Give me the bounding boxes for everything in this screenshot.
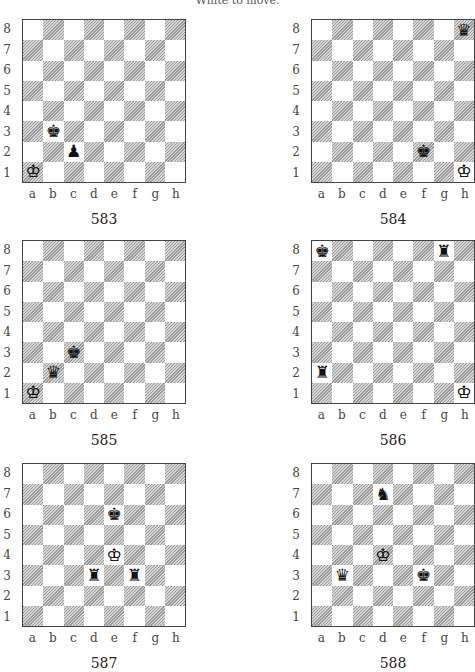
square-f4 <box>124 545 144 565</box>
square-c5 <box>64 81 84 101</box>
square-a7 <box>312 40 332 60</box>
chess-diagram-585: 87654321♚♛♔abcdefgh585 <box>0 240 200 460</box>
square-e5 <box>393 81 413 101</box>
rank-label: 3 <box>289 566 303 587</box>
square-f6 <box>124 505 144 525</box>
square-h3 <box>454 342 474 362</box>
square-g1 <box>434 606 454 626</box>
square-f4 <box>413 101 433 121</box>
square-h3 <box>454 121 474 141</box>
rank-label: 4 <box>289 322 303 343</box>
square-a3 <box>312 121 332 141</box>
square-g5 <box>145 302 165 322</box>
square-b2 <box>43 142 63 162</box>
square-b4 <box>43 322 63 342</box>
white-king-icon: ♔ <box>107 547 122 564</box>
rank-label: 2 <box>0 586 14 607</box>
square-d3 <box>373 565 393 585</box>
square-f5 <box>124 302 144 322</box>
square-c4 <box>353 101 373 121</box>
rank-label: 1 <box>0 607 14 628</box>
square-g4 <box>434 322 454 342</box>
rank-label: 2 <box>0 363 14 384</box>
square-a1 <box>23 606 43 626</box>
file-label: g <box>434 408 455 422</box>
square-e4 <box>104 322 124 342</box>
rank-label: 3 <box>0 566 14 587</box>
square-c1 <box>353 162 373 182</box>
rank-label: 7 <box>0 40 14 61</box>
square-g2 <box>434 142 454 162</box>
rank-label: 4 <box>289 545 303 566</box>
square-c4 <box>353 322 373 342</box>
square-h1: ♔ <box>454 162 474 182</box>
square-g1 <box>434 383 454 403</box>
square-a5 <box>312 525 332 545</box>
square-g2 <box>145 142 165 162</box>
square-h8 <box>165 241 185 261</box>
square-b3: ♛ <box>332 565 352 585</box>
square-e8 <box>104 241 124 261</box>
rank-label: 8 <box>289 240 303 261</box>
square-g5 <box>145 525 165 545</box>
square-f4 <box>124 322 144 342</box>
square-a7 <box>23 40 43 60</box>
file-labels: abcdefgh <box>22 408 186 422</box>
file-label: b <box>332 187 353 201</box>
square-e6 <box>104 282 124 302</box>
square-g1 <box>434 162 454 182</box>
square-a5 <box>23 81 43 101</box>
square-b7 <box>43 40 63 60</box>
square-g3 <box>145 121 165 141</box>
black-rook-icon: ♜ <box>86 567 101 584</box>
square-c3 <box>64 565 84 585</box>
square-e3 <box>393 565 413 585</box>
square-e7 <box>393 484 413 504</box>
square-g3 <box>434 342 454 362</box>
square-g6 <box>145 61 165 81</box>
square-d5 <box>84 525 104 545</box>
file-label: e <box>393 408 414 422</box>
square-f8 <box>124 20 144 40</box>
rank-label: 6 <box>289 504 303 525</box>
square-f3: ♚ <box>413 565 433 585</box>
square-a3 <box>23 342 43 362</box>
black-rook-icon: ♜ <box>436 243 451 260</box>
square-g3 <box>145 342 165 362</box>
square-b6 <box>43 61 63 81</box>
white-king-icon: ♔ <box>26 384 41 401</box>
square-c5 <box>353 81 373 101</box>
square-a4 <box>312 545 332 565</box>
square-c1 <box>353 606 373 626</box>
square-b5 <box>43 525 63 545</box>
square-e3 <box>393 342 413 362</box>
rank-label: 4 <box>0 101 14 122</box>
square-h4 <box>165 101 185 121</box>
square-b7 <box>43 484 63 504</box>
rank-label: 2 <box>289 363 303 384</box>
square-b5 <box>332 302 352 322</box>
file-label: g <box>434 631 455 645</box>
file-label: h <box>455 408 475 422</box>
square-c8 <box>353 241 373 261</box>
square-e1 <box>393 606 413 626</box>
square-d5 <box>373 525 393 545</box>
rank-label: 5 <box>289 81 303 102</box>
square-g8 <box>434 464 454 484</box>
square-f7 <box>124 484 144 504</box>
square-d4 <box>84 101 104 121</box>
square-a1: ♔ <box>23 162 43 182</box>
square-e5 <box>393 302 413 322</box>
square-b4 <box>332 101 352 121</box>
square-h1 <box>165 383 185 403</box>
square-a4 <box>23 101 43 121</box>
square-c7 <box>353 484 373 504</box>
square-f7 <box>413 261 433 281</box>
file-label: a <box>22 187 43 201</box>
square-b7 <box>332 484 352 504</box>
square-h6 <box>454 505 474 525</box>
square-g5 <box>434 81 454 101</box>
white-king-icon: ♔ <box>456 163 471 180</box>
square-c6 <box>353 505 373 525</box>
square-c2: ♟ <box>64 142 84 162</box>
